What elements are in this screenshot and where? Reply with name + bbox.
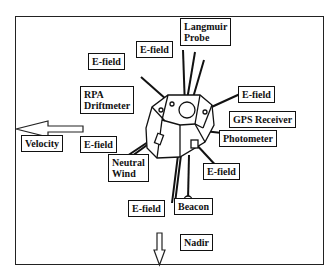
label-langmuir-probe: Langmuir Probe: [180, 18, 231, 46]
label-efield-top: E-field: [136, 41, 173, 58]
label-gps-receiver: GPS Receiver: [229, 111, 296, 128]
label-efield-left: E-field: [88, 53, 125, 70]
label-efield-bottom: E-field: [128, 200, 165, 217]
label-velocity: Velocity: [21, 135, 63, 152]
label-rpa-driftmeter: RPA Driftmeter: [80, 86, 134, 114]
label-efield-lowright: E-field: [203, 163, 240, 180]
label-beacon: Beacon: [174, 198, 213, 215]
label-efield-midleft: E-field: [80, 136, 117, 153]
label-neutral-wind: Neutral Wind: [108, 154, 149, 182]
label-photometer: Photometer: [219, 130, 277, 147]
label-nadir: Nadir: [180, 234, 213, 251]
label-efield-right: E-field: [238, 86, 275, 103]
nadir-arrow-icon: [154, 233, 165, 265]
